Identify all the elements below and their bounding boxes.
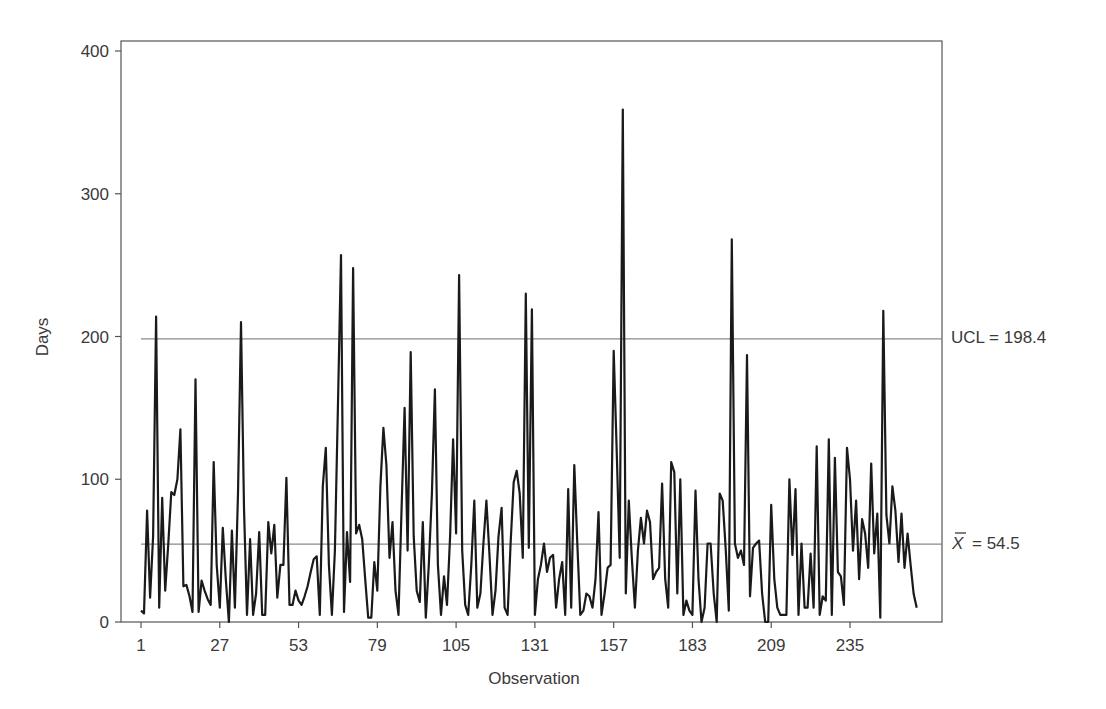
- data-series-line: [141, 110, 917, 623]
- y-tick-label: 400: [81, 42, 109, 61]
- mean-value: = 54.5: [972, 534, 1020, 553]
- y-tick-label: 100: [81, 470, 109, 489]
- x-axis-label: Observation: [488, 669, 580, 688]
- x-tick-label: 105: [442, 636, 470, 655]
- x-tick-label: 235: [836, 636, 864, 655]
- x-tick-label: 1: [136, 636, 145, 655]
- ucl-label: UCL = 198.4: [951, 328, 1046, 347]
- mean-label: X = 54.5: [951, 533, 1020, 553]
- x-tick-label: 183: [678, 636, 706, 655]
- reference-lines: [141, 339, 942, 544]
- x-axis-ticks: 1275379105131157183209235: [136, 622, 864, 655]
- x-tick-label: 27: [210, 636, 229, 655]
- y-tick-label: 0: [100, 613, 109, 632]
- y-axis-ticks: 0100200300400: [81, 42, 121, 632]
- x-tick-label: 209: [757, 636, 785, 655]
- control-chart: 0100200300400 1275379105131157183209235 …: [0, 0, 1106, 709]
- mean-symbol: X: [951, 534, 964, 553]
- y-axis-label: Days: [33, 318, 52, 357]
- x-tick-label: 157: [599, 636, 627, 655]
- y-tick-label: 200: [81, 328, 109, 347]
- y-tick-label: 300: [81, 185, 109, 204]
- x-tick-label: 79: [368, 636, 387, 655]
- x-tick-label: 131: [521, 636, 549, 655]
- x-tick-label: 53: [289, 636, 308, 655]
